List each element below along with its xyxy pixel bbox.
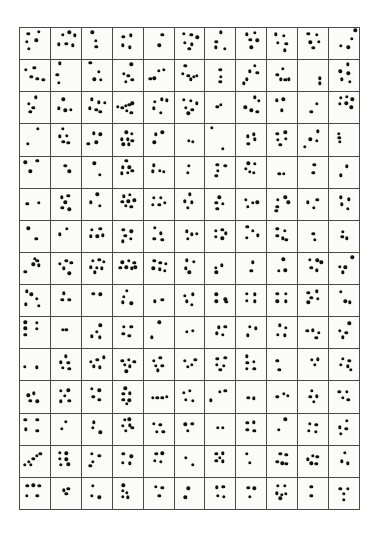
dot-marker	[99, 110, 102, 113]
dot-marker	[67, 487, 70, 490]
dot-panel	[298, 124, 328, 155]
dot-marker	[36, 159, 39, 162]
figure-page	[0, 0, 383, 539]
dot-marker	[215, 174, 218, 177]
dot-marker	[310, 358, 313, 361]
dot-marker	[36, 494, 39, 497]
dot-marker	[121, 200, 124, 203]
dot-panel	[267, 221, 297, 252]
dot-marker	[347, 398, 350, 401]
dot-marker	[187, 487, 190, 490]
dot-marker	[152, 107, 155, 110]
dot-marker	[121, 489, 124, 492]
dot-marker	[256, 110, 259, 113]
dot-marker	[345, 102, 348, 105]
dot-marker	[125, 159, 128, 162]
dot-marker	[34, 96, 37, 99]
dot-marker	[154, 485, 157, 488]
dot-marker	[98, 335, 101, 338]
dot-marker	[345, 237, 348, 240]
dot-marker	[62, 140, 65, 143]
dot-panel	[144, 253, 174, 284]
dot-marker	[31, 457, 34, 460]
dot-marker	[214, 235, 217, 238]
dot-panel	[175, 60, 205, 91]
dot-marker	[318, 81, 321, 84]
dot-marker	[96, 235, 99, 238]
dot-marker	[257, 99, 260, 102]
dot-marker	[191, 422, 194, 425]
dot-marker	[276, 73, 279, 76]
dot-marker	[311, 171, 314, 174]
dot-marker	[194, 358, 197, 361]
dot-marker	[155, 430, 158, 433]
dot-marker	[159, 261, 162, 264]
dot-marker	[91, 259, 94, 262]
dot-marker	[284, 292, 287, 295]
dot-marker	[185, 300, 188, 303]
dot-marker	[126, 171, 129, 174]
dot-marker	[184, 495, 187, 498]
dot-marker	[339, 290, 342, 293]
dot-panel	[175, 28, 205, 59]
dot-marker	[32, 392, 35, 395]
dot-marker	[122, 72, 125, 75]
dot-panel	[205, 92, 235, 123]
dot-panel	[144, 478, 174, 509]
dot-marker	[24, 333, 27, 336]
dot-marker	[245, 428, 248, 431]
dot-marker	[163, 269, 166, 272]
dot-marker	[242, 81, 245, 84]
dot-marker	[245, 292, 248, 295]
dot-marker	[256, 39, 259, 42]
dot-marker	[317, 40, 320, 43]
dot-marker	[28, 110, 31, 113]
dot-marker	[130, 455, 133, 458]
dot-marker	[285, 238, 288, 241]
dot-marker	[181, 72, 184, 75]
dot-marker	[248, 38, 251, 41]
dot-marker	[223, 325, 226, 328]
dot-marker	[215, 332, 218, 335]
dot-panel	[236, 92, 266, 123]
dot-marker	[276, 138, 279, 141]
dot-marker	[313, 363, 316, 366]
dot-marker	[24, 418, 27, 421]
dot-panel	[20, 60, 50, 91]
dot-marker	[159, 356, 162, 359]
dot-marker	[58, 233, 61, 236]
dot-marker	[278, 172, 281, 175]
dot-marker	[153, 237, 156, 240]
dot-marker	[27, 393, 30, 396]
dot-marker	[247, 396, 250, 399]
dot-marker	[348, 301, 351, 304]
dot-marker	[276, 234, 279, 237]
dot-marker	[92, 131, 95, 134]
dot-marker	[216, 494, 219, 497]
dot-panel	[175, 189, 205, 220]
dot-marker	[25, 494, 28, 497]
dot-marker	[128, 364, 131, 367]
dot-panel	[175, 285, 205, 316]
dot-marker	[125, 266, 128, 269]
dot-marker	[338, 102, 341, 105]
dot-marker	[223, 164, 226, 167]
dot-panel	[236, 28, 266, 59]
dot-marker	[160, 298, 163, 301]
dot-panel	[236, 124, 266, 155]
dot-marker	[218, 390, 221, 393]
dot-marker	[130, 63, 133, 66]
dot-panel	[175, 317, 205, 348]
dot-marker	[184, 267, 187, 270]
dot-panel	[113, 349, 143, 380]
dot-marker	[311, 454, 314, 457]
dot-panel	[236, 253, 266, 284]
dot-marker	[59, 400, 62, 403]
dot-marker	[250, 46, 253, 49]
dot-panel	[82, 28, 112, 59]
dot-panel	[175, 92, 205, 123]
dot-marker	[127, 143, 130, 146]
dot-marker	[252, 360, 255, 363]
dot-marker	[26, 142, 29, 145]
dot-panel	[144, 414, 174, 445]
